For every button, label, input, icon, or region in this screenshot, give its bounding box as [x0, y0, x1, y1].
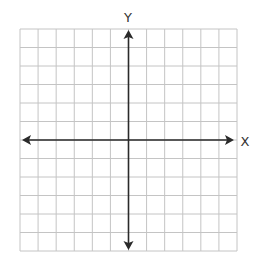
coordinate-plane: Y X — [0, 0, 259, 262]
y-axis-label: Y — [123, 10, 132, 25]
x-axis-label: X — [241, 134, 250, 149]
axes — [22, 30, 234, 250]
